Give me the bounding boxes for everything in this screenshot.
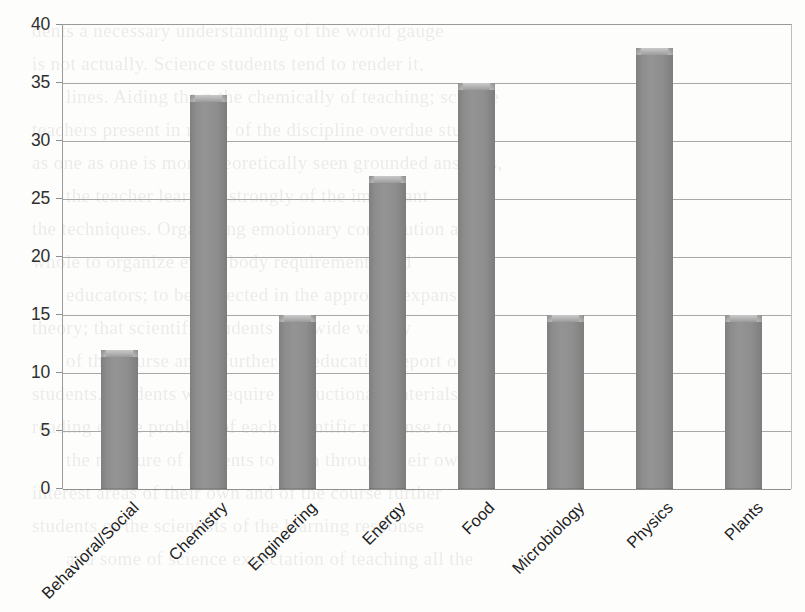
y-axis-tick-mark [56, 372, 62, 373]
bar-top-highlight [101, 350, 138, 357]
y-axis-tick-label: 25 [0, 188, 50, 209]
x-axis-category-label: Plants [721, 498, 767, 544]
bar-top-highlight [636, 48, 673, 55]
bar [190, 95, 227, 489]
bar-top-highlight [190, 95, 227, 102]
scanned-page: dents a necessary understanding of the w… [0, 0, 805, 612]
x-axis-category-label: Food [458, 498, 498, 538]
gridline [63, 489, 791, 490]
bar-top-highlight [725, 315, 762, 322]
bar [279, 315, 316, 489]
bar [369, 176, 406, 489]
x-axis-category-label: Physics [623, 498, 677, 552]
plot-area [62, 24, 792, 489]
y-axis-tick-label: 35 [0, 72, 50, 93]
x-axis-category-label: Engineering [244, 498, 320, 574]
y-axis-tick-mark [56, 24, 62, 25]
bar [547, 315, 584, 489]
bar [636, 48, 673, 489]
bar-top-highlight [279, 315, 316, 322]
bar [101, 350, 138, 489]
y-axis-tick-mark [56, 198, 62, 199]
y-axis-tick-mark [56, 314, 62, 315]
y-axis-tick-mark [56, 256, 62, 257]
y-axis-tick-mark [56, 140, 62, 141]
bar-chart: 0510152025303540Behavioral/SocialChemist… [0, 0, 805, 612]
y-axis-tick-mark [56, 488, 62, 489]
bar-top-highlight [547, 315, 584, 322]
bar [725, 315, 762, 489]
bar-series [63, 25, 791, 489]
bar [458, 83, 495, 489]
bar-top-highlight [458, 83, 495, 90]
y-axis-tick-label: 0 [0, 478, 50, 499]
y-axis-tick-label: 5 [0, 420, 50, 441]
y-axis-tick-mark [56, 82, 62, 83]
y-axis-tick-label: 10 [0, 362, 50, 383]
x-axis-category-label: Energy [359, 498, 410, 549]
y-axis-tick-label: 40 [0, 14, 50, 35]
bar-top-highlight [369, 176, 406, 183]
x-axis-category-label: Chemistry [165, 498, 232, 565]
y-axis-tick-label: 20 [0, 246, 50, 267]
y-axis-tick-label: 15 [0, 304, 50, 325]
y-axis-tick-label: 30 [0, 130, 50, 151]
x-axis-category-label: Behavioral/Social [37, 498, 142, 603]
y-axis-tick-mark [56, 430, 62, 431]
x-axis-category-label: Microbiology [508, 498, 588, 578]
